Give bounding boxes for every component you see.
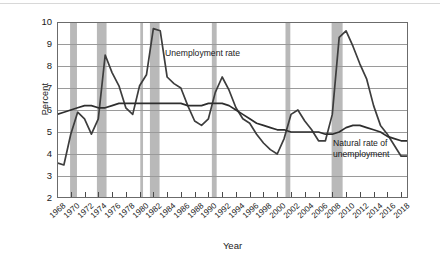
- y-tick-label: 4: [47, 149, 52, 159]
- y-tick-label: 9: [47, 39, 52, 49]
- y-tick-label: 8: [47, 61, 52, 71]
- series-line: [57, 103, 408, 140]
- y-tick-label: 10: [41, 17, 52, 27]
- natural-rate-label-line1: Natural rate of: [333, 138, 389, 149]
- y-tick-label: 7: [47, 83, 52, 93]
- x-axis-title: Year: [57, 240, 408, 251]
- chart-figure: Percent 2345678910 196819701972197419761…: [0, 0, 440, 264]
- natural-rate-label-line2: unemployment: [333, 149, 389, 160]
- y-tick-label: 6: [47, 105, 52, 115]
- top-divider-rule: [0, 3, 440, 4]
- y-tick-label: 3: [47, 171, 52, 181]
- natural-rate-label: Natural rate of unemployment: [333, 138, 389, 159]
- plot-area: Percent 2345678910 196819701972197419761…: [57, 22, 408, 198]
- y-tick-label: 2: [47, 193, 52, 203]
- y-tick-label: 5: [47, 127, 52, 137]
- x-tick-label: 2018: [393, 202, 412, 220]
- unemployment-rate-label: Unemployment rate: [165, 48, 240, 59]
